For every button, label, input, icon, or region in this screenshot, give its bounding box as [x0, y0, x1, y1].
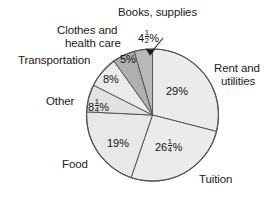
value-books-supplies-fraction: 12 — [145, 29, 149, 45]
value-tuition: 2614% — [155, 138, 182, 154]
value-rent-and-utilities: 29% — [166, 86, 188, 97]
label-books-supplies: Books, supplies — [118, 6, 197, 19]
label-transportation: Transportation — [18, 54, 90, 67]
value-clothes-and-health-care: 5% — [120, 54, 136, 65]
value-other-whole: 8 — [88, 102, 94, 113]
label-clothes-and-health-care-line1: Clothes and — [57, 24, 117, 37]
label-rent-and-utilities-line2: utilities — [221, 75, 255, 88]
value-tuition-fraction: 14 — [168, 138, 172, 154]
value-books-supplies: 412% — [138, 29, 159, 45]
pie-chart: Books, supplies Rent and utilities Tuiti… — [0, 0, 273, 204]
value-other: 814% — [88, 98, 109, 114]
label-clothes-and-health-care-line2: health care — [65, 37, 121, 50]
value-books-supplies-suffix: % — [149, 33, 159, 44]
value-tuition-suffix: % — [172, 142, 182, 153]
value-other-suffix: % — [99, 102, 109, 113]
label-food: Food — [62, 158, 88, 171]
value-books-supplies-whole: 4 — [138, 33, 144, 44]
label-tuition: Tuition — [199, 173, 232, 186]
value-other-fraction: 14 — [95, 98, 99, 114]
value-tuition-whole: 26 — [155, 142, 167, 153]
label-other: Other — [46, 95, 74, 108]
value-food: 19% — [107, 138, 129, 149]
value-transportation: 8% — [103, 74, 119, 85]
label-rent-and-utilities-line1: Rent and — [214, 62, 260, 75]
